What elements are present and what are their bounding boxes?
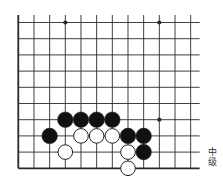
difficulty-label-char-2: 级 [207,157,217,167]
black-stone[interactable] [136,128,152,144]
black-stone[interactable] [120,128,136,144]
black-stone[interactable] [89,112,105,128]
black-stone[interactable] [73,112,89,128]
white-stone[interactable] [121,145,136,160]
white-stone[interactable] [121,161,136,176]
white-stone[interactable] [105,129,120,144]
difficulty-label-char-1: 中 [207,147,217,157]
go-board [0,0,223,188]
white-stone[interactable] [89,129,104,144]
white-stone[interactable] [58,145,73,160]
black-stone[interactable] [136,144,152,160]
difficulty-label: 中 级 [207,147,217,167]
black-stone[interactable] [58,112,74,128]
star-point [157,20,161,24]
black-stone[interactable] [105,112,121,128]
white-stone[interactable] [74,129,89,144]
star-point [63,20,67,24]
board-grid [18,15,199,168]
star-point [157,118,161,122]
black-stone[interactable] [42,128,58,144]
